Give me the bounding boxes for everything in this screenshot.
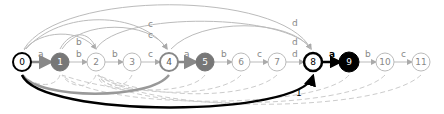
svg-text:1: 1 [57, 57, 63, 67]
state-10[interactable]: 10 [376, 53, 394, 71]
edge-label: a [329, 49, 335, 59]
edge-label: b [112, 49, 118, 59]
edge-label: c [257, 49, 262, 59]
svg-text:2: 2 [93, 57, 99, 67]
weight-label: 1 [296, 88, 302, 98]
edge-weight: 1 [329, 60, 333, 68]
edge-label: a [38, 49, 44, 59]
svg-text:3: 3 [129, 57, 135, 67]
state-4[interactable]: 4 [160, 53, 178, 71]
svg-text:11: 11 [415, 57, 426, 67]
state-3[interactable]: 3 [123, 53, 141, 71]
state-0[interactable]: 0 [13, 53, 31, 71]
svg-text:10: 10 [379, 57, 391, 67]
automaton-diagram: 1 a b b b c c c a b c d d d a 1 b c 0 1 … [0, 0, 444, 114]
state-11[interactable]: 11 [412, 53, 430, 71]
edge-label: d [292, 18, 298, 28]
top-arcs [24, 5, 311, 50]
edge-label: c [148, 49, 153, 59]
edge-label: c [401, 49, 406, 59]
svg-text:4: 4 [166, 57, 172, 67]
edge-label: b [76, 37, 82, 47]
svg-text:9: 9 [346, 57, 352, 67]
svg-text:6: 6 [238, 57, 244, 67]
state-7[interactable]: 7 [268, 53, 286, 71]
edge-label: c [148, 30, 153, 40]
svg-text:8: 8 [310, 57, 316, 67]
state-6[interactable]: 6 [232, 53, 250, 71]
state-5[interactable]: 5 [196, 53, 214, 71]
edge-label: b [365, 49, 371, 59]
edge-label: c [148, 19, 153, 29]
state-1[interactable]: 1 [51, 53, 69, 71]
state-2[interactable]: 2 [87, 53, 105, 71]
edge-label: d [292, 49, 298, 59]
svg-text:7: 7 [274, 57, 280, 67]
edge-label: b [221, 49, 227, 59]
edge-label: a [184, 49, 190, 59]
state-8[interactable]: 8 [304, 53, 322, 71]
svg-text:5: 5 [202, 57, 208, 67]
state-9[interactable]: 9 [339, 52, 359, 72]
edge-label: b [76, 49, 82, 59]
edge-label: d [292, 37, 298, 47]
svg-text:0: 0 [19, 57, 25, 67]
